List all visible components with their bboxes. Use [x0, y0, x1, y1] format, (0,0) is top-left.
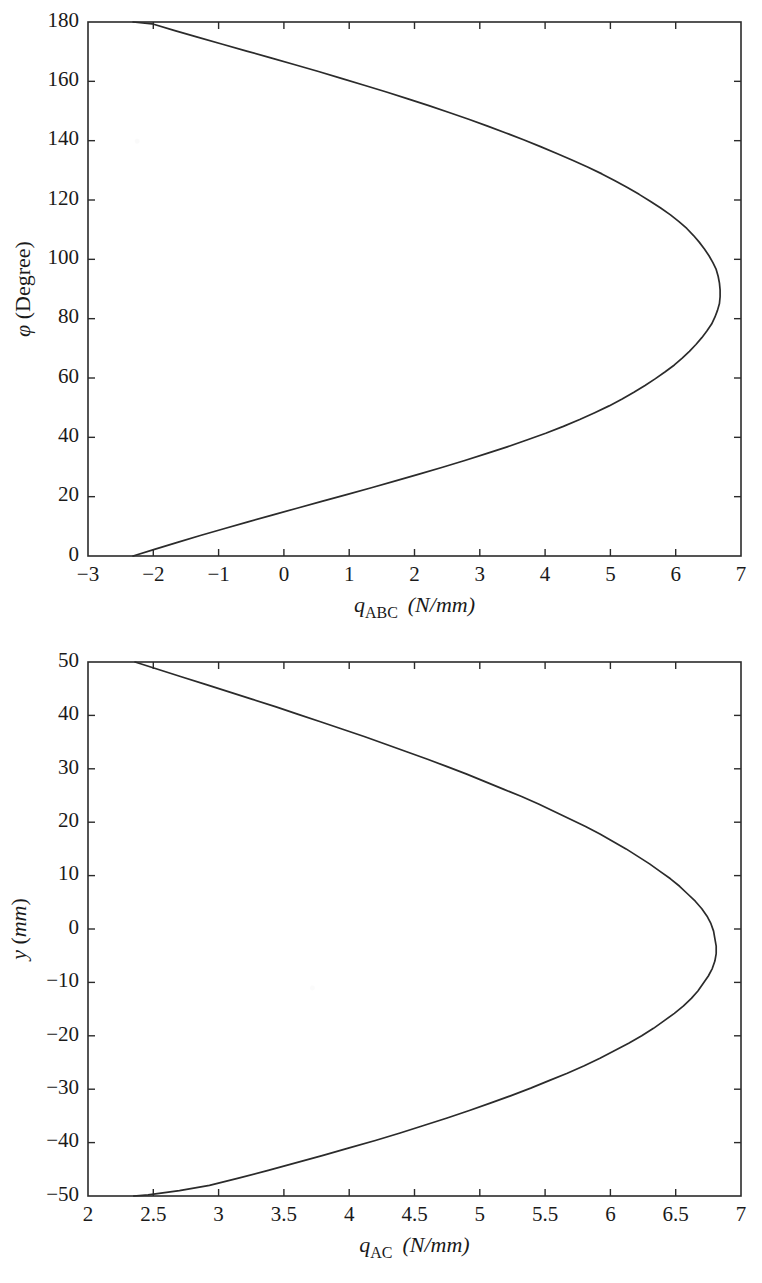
x-tick-label: −3 — [77, 562, 99, 586]
x-tick-label: 4 — [540, 562, 551, 586]
y-tick-label: 50 — [58, 648, 79, 672]
figure-q-ac-vs-y: 22.533.544.555.566.57−50−40−30−20−100102… — [0, 640, 762, 1283]
y-tick-label: 100 — [48, 245, 80, 269]
y-tick-label: 120 — [48, 186, 80, 210]
chart-qac-svg: 22.533.544.555.566.57−50−40−30−20−100102… — [0, 640, 762, 1283]
y-tick-label: 10 — [58, 861, 79, 885]
x-tick-label: 0 — [279, 562, 290, 586]
x-tick-label: 2.5 — [140, 1202, 166, 1226]
y-tick-label: 80 — [58, 304, 79, 328]
figure-q-abc-vs-phi: −3−2−101234567020406080100120140160180qA… — [0, 0, 762, 640]
y-tick-label: 60 — [58, 364, 79, 388]
x-tick-label: 7 — [736, 1202, 747, 1226]
chart-qabc-svg: −3−2−101234567020406080100120140160180qA… — [0, 0, 762, 640]
data-curve — [133, 22, 720, 556]
y-axis-title: φ (Degree) — [10, 241, 35, 337]
x-tick-label: −2 — [142, 562, 164, 586]
x-axis-title: qAC (N/mm) — [359, 1232, 469, 1261]
x-tick-label: 3 — [475, 562, 486, 586]
x-axis-title: qABC (N/mm) — [354, 592, 475, 621]
x-tick-label: 2 — [83, 1202, 94, 1226]
x-tick-label: 5 — [475, 1202, 486, 1226]
x-tick-label: 4.5 — [401, 1202, 427, 1226]
y-tick-label: 40 — [58, 701, 79, 725]
y-tick-label: 0 — [69, 915, 80, 939]
y-tick-label: 0 — [69, 542, 80, 566]
x-tick-label: 6 — [605, 1202, 616, 1226]
x-tick-label: 1 — [344, 562, 355, 586]
plot-frame — [88, 662, 741, 1196]
y-tick-label: 160 — [48, 67, 80, 91]
y-tick-label: 20 — [58, 482, 79, 506]
y-tick-label: −40 — [46, 1128, 79, 1152]
x-tick-label: 3 — [213, 1202, 224, 1226]
x-tick-label: 4 — [344, 1202, 355, 1226]
y-tick-label: 180 — [48, 8, 80, 32]
x-tick-label: 6 — [670, 562, 681, 586]
y-tick-label: 140 — [48, 126, 80, 150]
y-tick-label: 20 — [58, 808, 79, 832]
x-tick-label: 5.5 — [532, 1202, 558, 1226]
data-curve — [134, 662, 716, 1196]
y-tick-label: −20 — [46, 1022, 79, 1046]
x-tick-label: −1 — [207, 562, 229, 586]
y-tick-label: −10 — [46, 968, 79, 992]
y-axis-title: y (mm) — [6, 898, 31, 962]
x-tick-label: 2 — [409, 562, 420, 586]
y-tick-label: −30 — [46, 1075, 79, 1099]
x-tick-label: 3.5 — [271, 1202, 297, 1226]
y-tick-label: −50 — [46, 1182, 79, 1206]
x-tick-label: 5 — [605, 562, 616, 586]
x-tick-label: 6.5 — [663, 1202, 689, 1226]
y-tick-label: 40 — [58, 423, 79, 447]
y-tick-label: 30 — [58, 755, 79, 779]
x-tick-label: 7 — [736, 562, 747, 586]
